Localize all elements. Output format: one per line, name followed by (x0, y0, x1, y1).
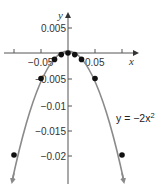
equation-label: y = −2x2 (116, 111, 155, 124)
data-point (11, 152, 17, 158)
y-tick-label: −0.02 (41, 151, 67, 162)
x-axis-label: x (128, 55, 134, 67)
x-tick-label: 0.05 (85, 57, 105, 68)
data-point (38, 76, 44, 82)
data-point (52, 57, 58, 63)
parabola-chart: −0.05 0.05 x y 0.005 −0.005 −0.01 −0.015… (0, 0, 160, 188)
y-tick-label: 0.005 (41, 23, 66, 34)
y-axis: y 0.005 −0.005 −0.01 −0.015 −0.02 (35, 9, 72, 184)
data-point (79, 57, 85, 63)
data-point (119, 152, 125, 158)
y-tick-label: −0.01 (41, 101, 67, 112)
y-axis-label: y (57, 9, 63, 21)
x-tick-label: −0.05 (28, 57, 54, 68)
data-point (58, 52, 64, 58)
y-tick-label: −0.015 (35, 126, 66, 137)
data-point (72, 52, 78, 58)
data-point (65, 50, 71, 56)
data-point (92, 76, 98, 82)
